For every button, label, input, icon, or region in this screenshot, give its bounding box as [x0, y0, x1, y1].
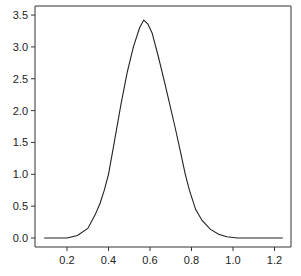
- x-tick-label: 1.0: [225, 254, 240, 266]
- y-tick-label: 2.5: [13, 73, 28, 85]
- x-tick-label: 1.2: [267, 254, 282, 266]
- y-tick-label: 1.0: [13, 168, 28, 180]
- x-tick-label: 0.8: [184, 254, 199, 266]
- density-curve: [44, 20, 283, 238]
- y-tick-label: 1.5: [13, 136, 28, 148]
- y-tick-label: 3.5: [13, 9, 28, 21]
- plot-frame: [35, 6, 291, 247]
- x-axis: 0.20.40.60.81.01.2: [59, 247, 282, 266]
- density-line-chart: 0.00.51.01.52.02.53.03.5 0.20.40.60.81.0…: [0, 0, 301, 276]
- y-tick-label: 0.0: [13, 232, 28, 244]
- y-tick-label: 2.0: [13, 105, 28, 117]
- x-tick-label: 0.4: [101, 254, 116, 266]
- x-tick-label: 0.6: [142, 254, 157, 266]
- y-tick-label: 3.0: [13, 41, 28, 53]
- x-tick-label: 0.2: [59, 254, 74, 266]
- y-axis: 0.00.51.01.52.02.53.03.5: [13, 9, 35, 244]
- y-tick-label: 0.5: [13, 200, 28, 212]
